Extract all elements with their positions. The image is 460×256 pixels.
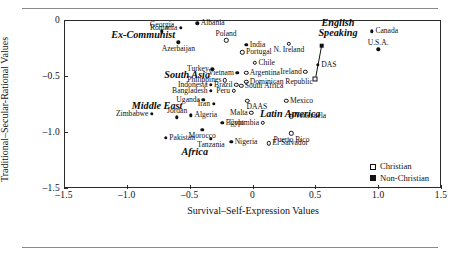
legend: ChristianNon-Christian <box>370 161 429 184</box>
data-point-label: Azerbaijan <box>162 45 195 53</box>
data-point-marker <box>164 136 167 139</box>
data-point-marker <box>221 121 224 124</box>
das-top-marker <box>319 43 324 48</box>
data-point-marker <box>175 116 178 119</box>
data-point-label: N. Ireland <box>274 46 305 54</box>
legend-item: Christian <box>370 161 429 173</box>
x-axis-title: Survival–Self-Expression Values <box>187 205 319 216</box>
data-point-marker <box>231 88 235 92</box>
data-point-label: Argentina <box>250 69 280 77</box>
cluster-label: EnglishSpeaking <box>318 17 357 38</box>
cluster-label: Africa <box>181 147 208 157</box>
data-point-label: Bangladesh <box>172 87 207 95</box>
data-point-label: Algeria <box>194 111 217 119</box>
data-point-marker <box>249 111 253 115</box>
x-axis-tick-label: 0.5 <box>309 190 321 200</box>
x-axis-tick-label: 0 <box>250 190 255 200</box>
data-point-label: Portugal <box>246 49 272 57</box>
data-point-marker <box>224 38 228 42</box>
cluster-label: Latin America <box>260 109 320 119</box>
data-point-label: Malta <box>230 109 248 117</box>
scatter-plot-figure: –1.5–1.0–0.500.51.01.50–0.5–1.0–1.5 Surv… <box>0 0 460 256</box>
data-point-label: South Africa <box>245 82 284 90</box>
data-point-label: Poland <box>216 30 237 38</box>
y-axis-tick-label: –1.0 <box>43 127 60 137</box>
data-point-marker <box>244 70 248 74</box>
x-axis-tick-label: 1.5 <box>435 190 447 200</box>
cluster-label: Middle East <box>132 101 183 111</box>
data-point-marker <box>179 26 182 29</box>
x-axis-tick-label: 1.0 <box>372 190 384 200</box>
y-axis-title: Traditional–Secular-Rational Values <box>0 37 10 182</box>
data-point-label: Nigeria <box>235 138 258 146</box>
data-point-marker <box>236 71 239 74</box>
christian-swatch-icon <box>370 164 376 170</box>
legend-item: Non-Christian <box>370 173 429 185</box>
x-axis-tick-label: –0.5 <box>181 190 198 200</box>
data-point-marker <box>209 83 212 86</box>
y-axis-tick-label: 0 <box>55 15 60 25</box>
y-axis-tick-label: –1.5 <box>43 183 60 193</box>
data-point-marker <box>150 112 153 115</box>
data-point-marker <box>376 47 379 50</box>
data-point-marker <box>284 98 288 102</box>
data-point-label: Peru <box>216 87 230 95</box>
data-point-label: Colombia <box>229 119 259 127</box>
y-axis-tick-label: –0.5 <box>43 71 60 81</box>
x-axis-tick <box>441 185 442 189</box>
data-point-marker <box>229 140 232 143</box>
cluster-label: South Asia <box>164 70 210 80</box>
top-rule <box>22 8 438 9</box>
data-point-label: Puerto Rico <box>273 136 309 144</box>
legend-label: Non-Christian <box>380 173 429 185</box>
data-point-marker <box>212 102 215 105</box>
data-point-marker <box>267 141 271 145</box>
data-point-label: Ireland <box>280 68 302 76</box>
data-point-marker <box>260 121 264 125</box>
data-point-label: Iran <box>198 100 210 108</box>
legend-label: Christian <box>380 161 412 173</box>
data-point-label: Albania <box>201 20 225 28</box>
data-point-label: U.S.A. <box>368 39 389 47</box>
data-point-label: DAS <box>321 61 336 69</box>
y-axis-tick <box>64 188 68 189</box>
data-point-label: Mexico <box>290 97 313 105</box>
data-point-marker <box>240 50 244 54</box>
data-point-marker <box>196 22 199 25</box>
x-axis-tick-label: –1.0 <box>118 190 135 200</box>
data-point-marker <box>189 113 192 116</box>
non-christian-swatch-icon <box>370 175 376 181</box>
das-bottom-marker <box>313 77 318 82</box>
data-point-marker <box>239 84 243 88</box>
data-point-marker <box>370 29 373 32</box>
cluster-label: Ex-Communist <box>111 29 175 39</box>
data-point-marker <box>234 83 238 87</box>
data-point-label: Chile <box>259 59 275 67</box>
data-point-marker <box>253 60 257 64</box>
bottom-rule <box>22 247 438 248</box>
data-point-marker <box>303 69 307 73</box>
data-point-marker <box>209 89 212 92</box>
data-point-marker <box>245 43 248 46</box>
data-point-marker <box>316 63 319 66</box>
data-point-label: Canada <box>375 27 398 35</box>
